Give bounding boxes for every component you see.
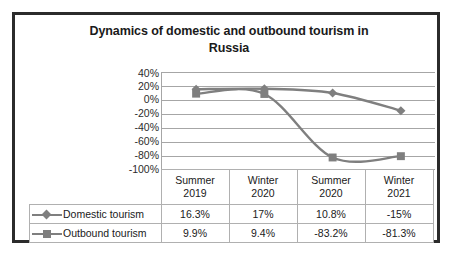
diamond-marker-icon (396, 106, 405, 115)
table-column-header: Winter 2021 (365, 170, 433, 205)
y-axis-tick: -20% (111, 108, 159, 119)
column-header-top: Winter (230, 174, 297, 187)
column-header-top: Summer (162, 174, 229, 187)
table-cell: 9.4% (229, 224, 297, 243)
table-cell: 16.3% (161, 205, 229, 224)
table-cell: -83.2% (297, 224, 365, 243)
chart-title-line-1: Dynamics of domestic and outbound touris… (53, 23, 405, 40)
square-marker-icon (329, 154, 337, 162)
table-cell: -15% (365, 205, 433, 224)
square-marker-icon (397, 152, 405, 160)
column-header-bottom: 2019 (162, 187, 229, 200)
table-column-header: Winter 2020 (229, 170, 297, 205)
legend-entry-outbound: Outbound tourism (30, 224, 162, 243)
column-header-top: Winter (366, 174, 433, 187)
y-axis-tick: 0% (111, 94, 159, 105)
table-cell: 17% (229, 205, 297, 224)
y-axis-tick: -80% (111, 150, 159, 161)
square-marker-icon (32, 228, 62, 239)
y-axis-tick: 20% (111, 81, 159, 92)
y-axis: 40% 20% 0% -20% -40% -60% -80% -100% (111, 72, 159, 176)
table-cell: -81.3% (365, 224, 433, 243)
column-header-bottom: 2020 (230, 187, 297, 200)
chart-title-line-2: Russia (53, 40, 405, 57)
plot-wrapper: 40% 20% 0% -20% -40% -60% -80% -100% (15, 72, 437, 176)
column-header-top: Summer (298, 174, 365, 187)
table-row: Outbound tourism 9.9% 9.4% -83.2% -81.3% (30, 224, 434, 243)
chart-frame: Dynamics of domestic and outbound touris… (12, 12, 440, 243)
diamond-marker-icon (328, 88, 337, 97)
y-axis-tick: -40% (111, 122, 159, 133)
series-line (196, 89, 401, 111)
table-cell: 9.9% (161, 224, 229, 243)
legend-label: Domestic tourism (63, 209, 144, 221)
table-column-header: Summer 2020 (297, 170, 365, 205)
data-table: Summer 2019 Winter 2020 Summer 2020 Wint… (29, 169, 434, 243)
legend-entry-domestic: Domestic tourism (30, 205, 162, 224)
column-header-bottom: 2021 (366, 187, 433, 200)
table-cell: 10.8% (297, 205, 365, 224)
table-corner-cell (30, 170, 162, 205)
legend-label: Outbound tourism (63, 228, 146, 240)
chart-title: Dynamics of domestic and outbound touris… (53, 23, 405, 57)
diamond-marker-icon (32, 209, 62, 220)
series-plot (162, 73, 435, 169)
table-column-header: Summer 2019 (161, 170, 229, 205)
square-marker-icon (192, 90, 200, 98)
y-axis-tick: 40% (111, 68, 159, 79)
series-line (196, 89, 401, 162)
y-axis-tick: -60% (111, 136, 159, 147)
square-marker-icon (260, 90, 268, 98)
plot-area (161, 72, 435, 169)
table-header-row: Summer 2019 Winter 2020 Summer 2020 Wint… (30, 170, 434, 205)
table-row: Domestic tourism 16.3% 17% 10.8% -15% (30, 205, 434, 224)
column-header-bottom: 2020 (298, 187, 365, 200)
